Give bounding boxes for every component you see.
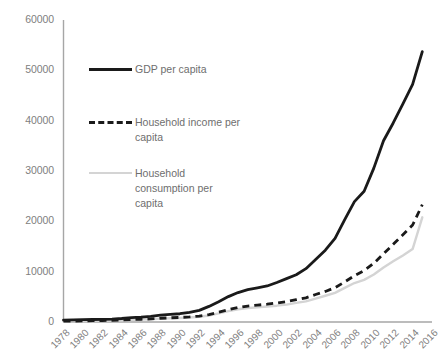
legend-item-household-income[interactable]: Household income per capita: [89, 115, 243, 145]
legend-label-household-consumption: Household consumption per capita: [135, 166, 243, 211]
y-axis-tick-label: 20000: [8, 214, 54, 226]
solid-dark-line-icon: [89, 62, 135, 77]
solid-light-line-icon: [89, 166, 135, 181]
legend-item-gdp[interactable]: GDP per capita: [89, 62, 243, 77]
y-axis-tick-label: 30000: [8, 164, 54, 176]
dashed-dark-line-icon: [89, 115, 135, 130]
legend-item-household-consumption[interactable]: Household consumption per capita: [89, 166, 243, 211]
chart-container: 0100002000030000400005000060000 19781980…: [0, 0, 444, 363]
y-axis-tick-label: 0: [8, 315, 54, 327]
legend-label-gdp: GDP per capita: [135, 62, 243, 77]
y-axis-tick-label: 10000: [8, 265, 54, 277]
y-axis-tick-label: 40000: [8, 114, 54, 126]
y-axis-tick-label: 50000: [8, 63, 54, 75]
y-axis-tick-label: 60000: [8, 13, 54, 25]
series-line-household-income: [64, 205, 423, 321]
legend-label-household-income: Household income per capita: [135, 115, 243, 145]
